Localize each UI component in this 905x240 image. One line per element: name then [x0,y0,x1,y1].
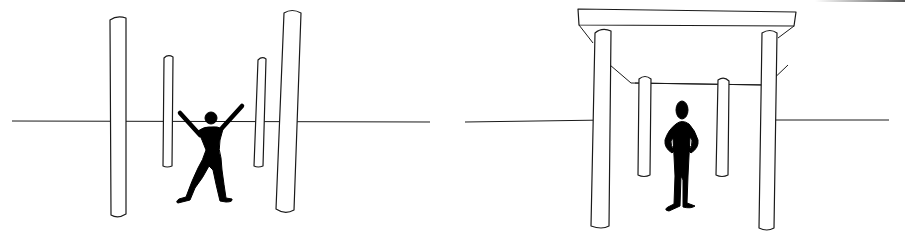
figure-arms-raised [177,106,242,203]
horizon-line [12,121,430,122]
column-small-right [254,58,266,167]
column-front-left [591,29,611,228]
illustration-free-columns [0,0,450,240]
column-rear-right [716,78,729,176]
column-large-left [110,17,126,217]
roof-slab [578,9,796,26]
column-small-left [163,56,173,167]
column-front-right [759,31,777,231]
rear-beam [635,83,765,85]
illustration-roofed-portal [455,0,905,240]
column-large-right [276,11,301,213]
column-rear-left [638,77,651,177]
figure-hands-on-hips [665,101,698,211]
panel-left [0,0,450,240]
panel-right [455,0,905,240]
horizon-line [465,120,889,122]
